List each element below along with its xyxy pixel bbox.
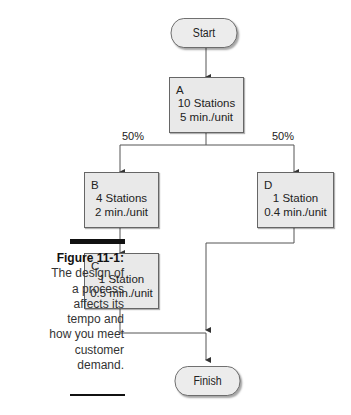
- node-rate: 2 min./unit: [85, 205, 158, 219]
- node-stations: 1 Station: [258, 191, 333, 205]
- process-node-b: B 4 Stations 2 min./unit: [84, 172, 159, 228]
- caption-text: The design of a process affects its temp…: [44, 266, 124, 373]
- node-stations: 10 Stations: [170, 96, 243, 110]
- node-letter: B: [91, 178, 99, 192]
- node-stations: 4 Stations: [85, 191, 158, 205]
- branch-label-b: 50%: [122, 130, 144, 142]
- start-label: Start: [193, 26, 215, 40]
- finish-label: Finish: [193, 374, 221, 388]
- node-letter: A: [176, 83, 184, 97]
- start-terminal: Start: [171, 18, 238, 48]
- node-rate: 0.4 min./unit: [258, 205, 333, 219]
- finish-terminal: Finish: [175, 366, 241, 396]
- node-letter: D: [264, 178, 272, 192]
- caption-title: Figure 11-1:: [44, 251, 124, 266]
- process-node-a: A 10 Stations 5 min./unit: [169, 77, 244, 133]
- node-rate: 5 min./unit: [170, 110, 243, 124]
- branch-label-d: 50%: [272, 130, 294, 142]
- caption-bottom-rule: [70, 394, 125, 396]
- figure-caption: Figure 11-1: The design of a process aff…: [44, 251, 124, 373]
- process-node-d: D 1 Station 0.4 min./unit: [257, 172, 334, 228]
- caption-top-rule: [70, 239, 125, 244]
